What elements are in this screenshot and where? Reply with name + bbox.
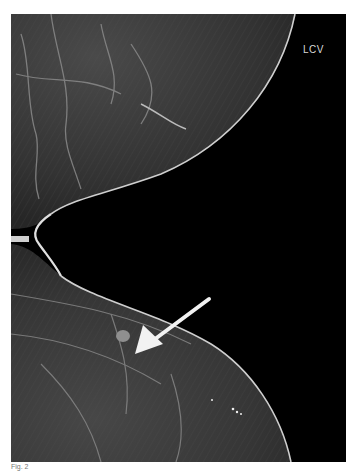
view-label: LCV [303,44,324,55]
lesion [116,330,130,342]
caption: Fig. 2 [11,463,29,472]
mammogram-image: LCV [11,14,346,462]
mammogram-graphic [11,14,346,462]
